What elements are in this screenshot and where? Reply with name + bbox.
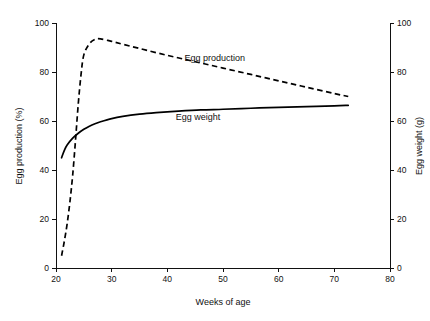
series-annotation-0: Egg production (184, 53, 245, 63)
egg-production-weight-chart: 020406080100 020406080100 20304050607080… (0, 0, 430, 321)
x-axis-title: Weeks of age (196, 297, 251, 307)
right-tick-label: 100 (397, 18, 411, 28)
chart-background (0, 0, 430, 321)
bottom-tick-label: 30 (107, 274, 117, 284)
right-tick-label: 80 (397, 67, 407, 77)
bottom-tick-label: 60 (274, 274, 284, 284)
y2-axis-title: Egg weight (g) (414, 117, 424, 175)
left-tick-label: 100 (35, 18, 49, 28)
bottom-tick-label: 80 (385, 274, 395, 284)
bottom-tick-label: 50 (218, 274, 228, 284)
series-annotation-1: Egg weight (176, 112, 221, 122)
left-tick-label: 60 (40, 116, 50, 126)
right-tick-label: 20 (397, 214, 407, 224)
left-tick-label: 20 (40, 214, 50, 224)
chart-container: 020406080100 020406080100 20304050607080… (0, 0, 430, 321)
right-tick-label: 60 (397, 116, 407, 126)
bottom-tick-label: 70 (330, 274, 340, 284)
left-tick-label: 0 (44, 263, 49, 273)
bottom-tick-label: 20 (51, 274, 61, 284)
right-tick-label: 40 (397, 165, 407, 175)
left-tick-label: 80 (40, 67, 50, 77)
left-tick-label: 40 (40, 165, 50, 175)
right-tick-label: 0 (397, 263, 402, 273)
bottom-tick-label: 40 (163, 274, 173, 284)
y-axis-title: Egg production (%) (14, 107, 24, 184)
